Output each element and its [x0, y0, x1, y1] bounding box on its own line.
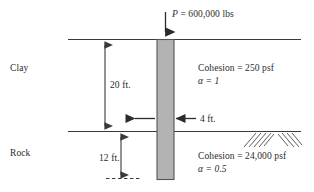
rock-alpha-label: α = 0.5	[198, 163, 286, 176]
drilled-shaft-body	[157, 40, 174, 180]
rock-properties-block: Cohesion = 24,000 psf α = 0.5	[198, 150, 286, 176]
load-equals: =	[178, 9, 188, 19]
rock-hatch-chevron-icon	[244, 133, 302, 147]
clay-properties-block: Cohesion = 250 psf α = 1	[198, 62, 274, 88]
figure-canvas: P = 600,000 lbs Clay Rock 20 ft. 12 ft. …	[0, 0, 314, 192]
layer-label-clay: Clay	[10, 62, 28, 75]
load-unit: lbs	[222, 9, 233, 19]
rock-cohesion-label: Cohesion = 24,000 psf	[198, 150, 286, 163]
load-value: 600,000	[188, 9, 220, 19]
clay-alpha-label: α = 1	[198, 75, 274, 88]
rock-socket-depth-label: 12 ft.	[99, 152, 120, 165]
shaft-diameter-label: 4 ft.	[200, 113, 216, 126]
clay-depth-label: 20 ft.	[110, 79, 131, 92]
load-label: P = 600,000 lbs	[172, 8, 234, 21]
clay-cohesion-label: Cohesion = 250 psf	[198, 62, 274, 75]
layer-label-rock: Rock	[10, 147, 30, 160]
